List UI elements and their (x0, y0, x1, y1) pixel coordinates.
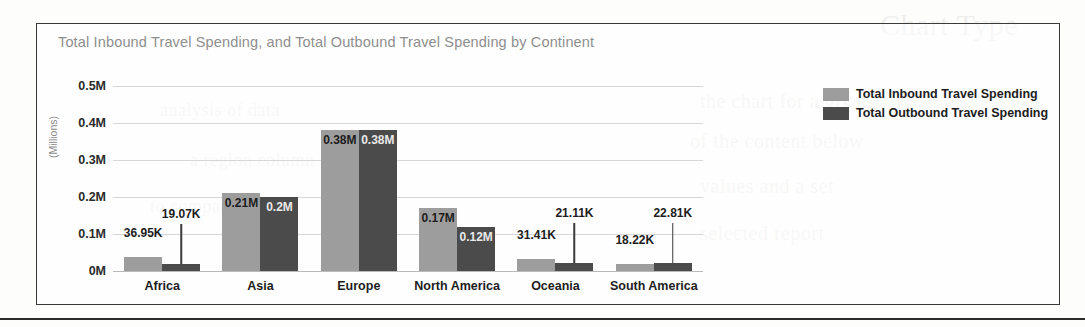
bar-wrapper: 0.38M (359, 86, 397, 271)
y-tick-label: 0.2M (78, 190, 106, 204)
bar-inbound[interactable] (321, 130, 359, 271)
bar-wrapper: 0.17M (419, 86, 457, 271)
x-tick-label: Africa (144, 279, 179, 293)
y-tick-label: 0.5M (78, 79, 106, 93)
y-axis-title: (Millions) (47, 116, 59, 158)
legend-item-outbound[interactable]: Total Outbound Travel Spending (823, 106, 1048, 120)
label-leader-line (180, 224, 182, 264)
bar-value-label: 0.17M (421, 212, 454, 224)
y-tick-label: 0.3M (78, 153, 106, 167)
bar-value-label: 36.95K (124, 227, 163, 239)
chart-container: Total Inbound Travel Spending, and Total… (36, 23, 1060, 305)
bar-value-label: 0.38M (323, 134, 356, 146)
bar-value-label: 0.38M (361, 134, 394, 146)
bar-wrapper: 19.07K (162, 86, 200, 271)
bar-value-label: 22.81K (653, 207, 692, 219)
bar-pair: 0.17M0.12M (408, 86, 506, 271)
bar-inbound[interactable] (517, 259, 555, 271)
bar-wrapper: 0.12M (457, 86, 495, 271)
bar-pair: 36.95K19.07K (113, 86, 211, 271)
bar-wrapper: 0.38M (321, 86, 359, 271)
y-tick-label: 0M (89, 264, 106, 278)
bar-pair: 31.41K21.11K (506, 86, 604, 271)
legend-item-label: Total Inbound Travel Spending (856, 87, 1038, 101)
bar-value-label: 0.12M (459, 231, 492, 243)
bar-value-label: 31.41K (517, 229, 556, 241)
page-horizontal-rule (0, 318, 1085, 320)
bar-inbound[interactable] (124, 257, 162, 271)
bar-group: 36.95K19.07KAfrica (113, 86, 211, 271)
legend-item-label: Total Outbound Travel Spending (856, 106, 1048, 120)
bar-outbound[interactable] (359, 130, 397, 271)
bar-wrapper: 18.22K (616, 86, 654, 271)
bar-value-label: 0.21M (225, 197, 258, 209)
x-tick-label: Europe (337, 279, 380, 293)
bar-groups: 36.95K19.07KAfrica0.21M0.2MAsia0.38M0.38… (113, 86, 703, 271)
chart-legend: Total Inbound Travel Spending Total Outb… (823, 87, 1048, 120)
bar-inbound[interactable] (616, 264, 654, 271)
bar-outbound[interactable] (555, 263, 593, 271)
bar-wrapper: 22.81K (654, 86, 692, 271)
x-tick-label: Asia (247, 279, 273, 293)
chart-title: Total Inbound Travel Spending, and Total… (58, 34, 594, 50)
bar-value-label: 0.2M (266, 201, 293, 213)
legend-swatch-icon (823, 88, 849, 101)
bar-pair: 0.21M0.2M (211, 86, 309, 271)
bar-wrapper: 0.21M (222, 86, 260, 271)
y-tick-label: 0.1M (78, 227, 106, 241)
bar-group: 0.21M0.2MAsia (211, 86, 309, 271)
x-tick-label: Oceania (531, 279, 580, 293)
bar-group: 18.22K22.81KSouth America (605, 86, 703, 271)
bar-pair: 18.22K22.81K (605, 86, 703, 271)
bar-wrapper: 31.41K (517, 86, 555, 271)
x-tick-label: North America (414, 279, 500, 293)
bar-wrapper: 21.11K (555, 86, 593, 271)
label-leader-line (672, 223, 674, 263)
bar-pair: 0.38M0.38M (310, 86, 408, 271)
bar-group: 0.17M0.12MNorth America (408, 86, 506, 271)
bar-outbound[interactable] (162, 264, 200, 271)
bar-wrapper: 36.95K (124, 86, 162, 271)
legend-swatch-icon (823, 107, 849, 120)
legend-item-inbound[interactable]: Total Inbound Travel Spending (823, 87, 1048, 101)
bar-wrapper: 0.2M (260, 86, 298, 271)
x-tick-label: South America (610, 279, 698, 293)
plot-area: (Millions) 0M 0.1M 0.2M 0.3M 0.4M 0.5M 3… (113, 86, 703, 271)
bar-group: 31.41K21.11KOceania (506, 86, 604, 271)
label-leader-line (574, 223, 576, 263)
bar-group: 0.38M0.38MEurope (310, 86, 408, 271)
bar-value-label: 18.22K (615, 234, 654, 246)
bar-value-label: 19.07K (162, 208, 201, 220)
bar-outbound[interactable] (654, 263, 692, 271)
bar-value-label: 21.11K (555, 207, 593, 219)
y-tick-label: 0.4M (78, 116, 106, 130)
